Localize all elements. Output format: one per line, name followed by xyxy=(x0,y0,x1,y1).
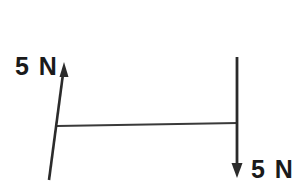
force-couple-figure: 5 N 5 N xyxy=(0,0,305,191)
left-force-label: 5 N xyxy=(15,54,58,79)
right-force-label: 5 N xyxy=(251,157,294,182)
